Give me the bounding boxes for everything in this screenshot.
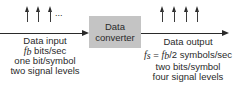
- up-arrow-shaft: [174, 10, 175, 22]
- output-title: Data output: [141, 37, 235, 47]
- up-arrow-shaft: [27, 10, 28, 22]
- output-arrow-head: [222, 30, 229, 36]
- up-arrow-shaft: [162, 10, 163, 22]
- up-arrow-shaft: [50, 10, 51, 22]
- output-arrow-line: [141, 33, 223, 34]
- input-arrow-line: [0, 33, 83, 34]
- ellipsis: ...: [55, 8, 63, 18]
- box-label-line2: converter: [95, 32, 135, 43]
- up-arrow-shaft: [38, 10, 39, 22]
- box-label-line1: Data: [105, 21, 125, 32]
- output-levels: four signal levels: [141, 72, 235, 82]
- up-arrow-shaft: [197, 10, 198, 22]
- up-arrow-shaft: [186, 10, 187, 22]
- input-levels: two signal levels: [0, 66, 90, 76]
- data-converter-diagram: ... Data converter Data input fb bits/se…: [0, 0, 235, 99]
- data-converter-box: Data converter: [89, 16, 141, 48]
